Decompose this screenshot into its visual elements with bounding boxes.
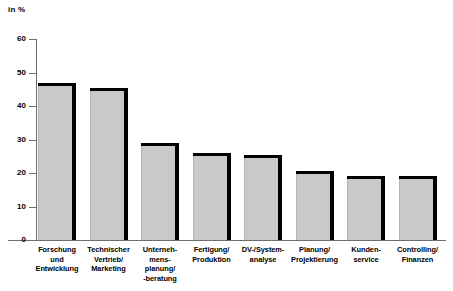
bar — [90, 88, 128, 240]
bar-left-edge — [244, 158, 245, 240]
axis-unit-label: in % — [8, 5, 25, 14]
bar-left-edge — [347, 179, 348, 240]
bar-left-edge — [193, 156, 194, 240]
bar — [141, 143, 179, 240]
category-label-line: planung/ — [129, 264, 191, 274]
plot-area — [36, 39, 446, 240]
bar — [399, 176, 437, 240]
y-axis-tick-label: 30 — [0, 136, 26, 144]
bar-left-edge — [38, 86, 39, 240]
y-axis-tick — [29, 207, 36, 208]
category-label: Controlling/Finanzen — [387, 245, 449, 264]
category-label-line: Finanzen — [387, 255, 449, 265]
bar-left-edge — [296, 174, 297, 240]
y-axis-tick-label: 60 — [0, 35, 26, 43]
bar-left-edge — [90, 91, 91, 240]
y-axis-tick-label: 40 — [0, 102, 26, 110]
y-axis-tick — [29, 240, 36, 241]
bar-left-edge — [399, 179, 400, 240]
bar — [296, 171, 334, 240]
bar — [38, 83, 76, 240]
bar — [347, 176, 385, 240]
bar — [193, 153, 231, 240]
y-axis-tick — [29, 73, 36, 74]
y-axis-tick — [29, 140, 36, 141]
bar-left-edge — [141, 146, 142, 240]
category-label-line: -beratung — [129, 274, 191, 284]
y-axis-tick — [29, 39, 36, 40]
y-axis-tick-label: 0 — [0, 236, 26, 244]
x-axis-baseline — [8, 240, 446, 241]
category-label-line: Controlling/ — [387, 245, 449, 255]
bar-chart: in % 0102030405060 ForschungundEntwicklu… — [0, 0, 453, 291]
bar — [244, 155, 282, 240]
y-axis-tick-label: 20 — [0, 169, 26, 177]
y-axis-tick — [29, 173, 36, 174]
y-axis-tick-label: 50 — [0, 69, 26, 77]
y-axis-tick-label: 10 — [0, 203, 26, 211]
y-axis-tick — [29, 106, 36, 107]
